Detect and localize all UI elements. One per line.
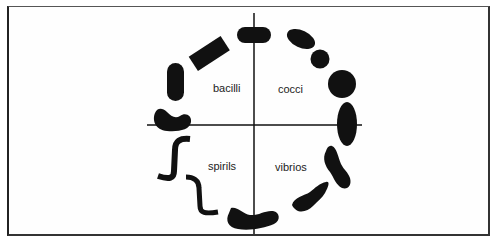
bacillus-shape-top [237, 27, 271, 43]
spirillum-shape-2 [186, 177, 218, 213]
vibrio-shape-upper-diagonal [324, 146, 350, 189]
bacillus-shape-bean [154, 109, 191, 132]
coccus-shape-large [328, 70, 356, 98]
morphology-diagram [0, 0, 493, 244]
bacillus-shape-vertical [167, 63, 184, 101]
spirillum-shape-1 [158, 139, 190, 178]
coccus-shape-vertical-oval [337, 102, 357, 146]
quadrant-label-bacilli: bacilli [213, 82, 241, 94]
coccus-shape-oval [284, 25, 318, 53]
quadrant-label-spirils: spirils [208, 160, 236, 172]
quadrant-label-vibrios: vibrios [275, 161, 307, 173]
coccus-shape-small [311, 50, 330, 69]
bacillus-shape-rectangle [189, 36, 230, 71]
quadrant-label-cocci: cocci [278, 83, 303, 95]
vibrio-shape-lower-diagonal [292, 182, 329, 212]
vibrio-shape-bottom [227, 208, 278, 230]
